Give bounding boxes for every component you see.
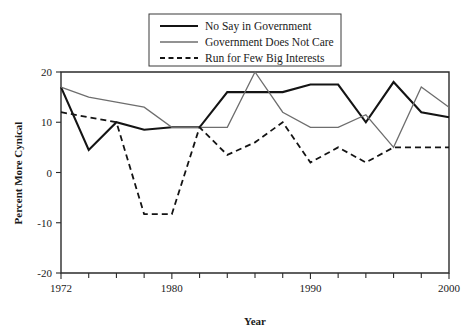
x-axis-title: Year <box>244 315 266 327</box>
y-tick-label: -20 <box>37 267 52 279</box>
legend-label: Government Does Not Care <box>205 36 334 48</box>
y-tick-label: 20 <box>41 66 53 78</box>
x-axis-ticks: 1972198019902000 <box>50 273 461 294</box>
x-tick-label: 1990 <box>299 282 322 294</box>
legend-label: Run for Few Big Interests <box>205 52 325 65</box>
series-line <box>61 112 449 214</box>
chart-legend: No Say in GovernmentGovernment Does Not … <box>149 14 341 66</box>
y-tick-label: 0 <box>47 167 53 179</box>
x-tick-label: 2000 <box>438 282 461 294</box>
legend-label: No Say in Government <box>205 20 312 33</box>
series-line <box>61 82 449 150</box>
chart-figure: 20100-10-20 1972198019902000 Year Percen… <box>0 0 469 332</box>
y-axis-ticks: 20100-10-20 <box>37 66 61 279</box>
data-series-group <box>61 72 449 214</box>
y-axis-title: Percent More Cynical <box>12 122 24 225</box>
series-line <box>61 72 449 147</box>
x-tick-label: 1980 <box>161 282 184 294</box>
y-tick-label: 10 <box>41 116 53 128</box>
y-tick-label: -10 <box>37 217 52 229</box>
x-tick-label: 1972 <box>50 282 72 294</box>
line-chart: 20100-10-20 1972198019902000 Year Percen… <box>0 0 469 332</box>
